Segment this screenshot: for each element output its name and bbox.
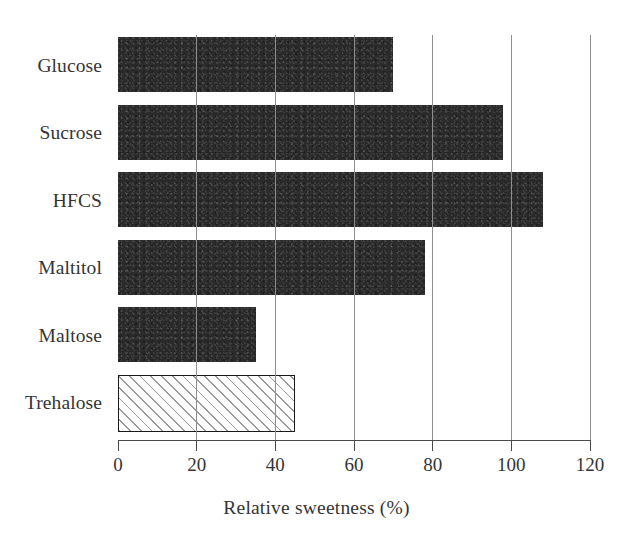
gridline-40 — [275, 35, 276, 440]
x-tick-label-120: 120 — [560, 455, 620, 474]
bar-trehalose — [118, 375, 295, 432]
category-axis-labels: Glucose Sucrose HFCS Maltitol Maltose Tr… — [0, 35, 110, 440]
category-label-trehalose: Trehalose — [0, 393, 102, 413]
category-label-maltose: Maltose — [0, 326, 102, 346]
plot-area — [118, 35, 590, 440]
x-tick-label-40: 40 — [245, 455, 305, 474]
category-label-maltitol: Maltitol — [0, 258, 102, 278]
bar-maltose — [118, 307, 256, 362]
x-tick-40 — [275, 440, 276, 451]
category-label-glucose: Glucose — [0, 56, 102, 76]
x-tick-20 — [196, 440, 197, 451]
bar-maltitol — [118, 240, 425, 295]
category-label-sucrose: Sucrose — [0, 123, 102, 143]
x-tick-label-20: 20 — [167, 455, 227, 474]
x-tick-0 — [118, 440, 119, 451]
x-axis-title: Relative sweetness (%) — [0, 498, 633, 518]
gridline-20 — [196, 35, 197, 440]
x-tick-120 — [590, 440, 591, 451]
x-tick-60 — [354, 440, 355, 451]
x-tick-80 — [432, 440, 433, 451]
gridline-60 — [354, 35, 355, 440]
x-tick-100 — [511, 440, 512, 451]
gridline-100 — [511, 35, 512, 440]
bar-sucrose — [118, 105, 503, 160]
x-tick-label-0: 0 — [88, 455, 148, 474]
gridline-120 — [590, 35, 591, 440]
category-label-hfcs: HFCS — [0, 191, 102, 211]
gridline-80 — [432, 35, 433, 440]
bar-hfcs — [118, 172, 543, 227]
x-axis-line — [118, 440, 591, 441]
x-tick-label-60: 60 — [324, 455, 384, 474]
relative-sweetness-bar-chart: Glucose Sucrose HFCS Maltitol Maltose Tr… — [0, 0, 633, 546]
bar-glucose — [118, 37, 393, 92]
x-tick-label-100: 100 — [481, 455, 541, 474]
x-tick-label-80: 80 — [403, 455, 463, 474]
